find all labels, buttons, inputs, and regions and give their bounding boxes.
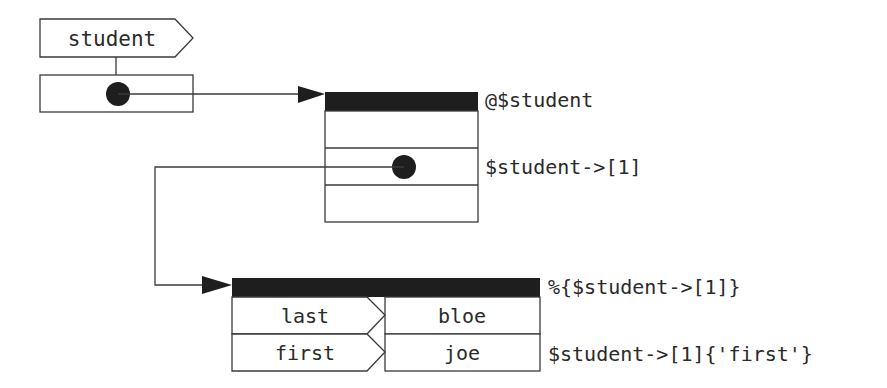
reference-diagram: student @$student $student->[1] last blo… xyxy=(0,0,887,388)
array-label: @$student xyxy=(485,88,593,112)
hash-value-joe: joe xyxy=(444,341,480,365)
hash-label: %{$student->[1]} xyxy=(548,275,741,299)
hash-key-last: last xyxy=(281,304,329,328)
hash-header-bar xyxy=(232,278,540,297)
hash-key-first: first xyxy=(275,341,335,365)
hash-entry-label: $student->[1]{'first'} xyxy=(548,342,813,366)
array-structure xyxy=(325,92,478,222)
arrowhead-icon xyxy=(298,86,325,103)
arrowhead-icon xyxy=(202,276,232,294)
variable-name-tag: student xyxy=(40,19,193,57)
hash-value-bloe: bloe xyxy=(438,304,486,328)
array-header-bar xyxy=(325,92,478,111)
array-element-label: $student->[1] xyxy=(485,155,642,179)
hash-structure: last bloe first joe xyxy=(232,278,540,371)
variable-name: student xyxy=(68,27,157,51)
